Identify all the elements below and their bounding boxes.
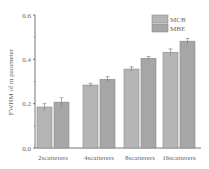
y-axis-title: FWHM of m parameter — [7, 48, 15, 115]
legend-label-mbe: MBE — [170, 25, 185, 33]
bar-mcb — [163, 52, 178, 148]
x-category-label: 4scatterers — [84, 154, 114, 162]
y-tick-label: 0.4 — [22, 56, 31, 64]
bar-mcb — [37, 107, 52, 148]
legend-swatch-mcb — [152, 15, 168, 23]
bar-mbe — [100, 79, 115, 148]
bar-mcb — [124, 69, 139, 148]
plot-area: 0.00.20.40.62scatterers4scatterers8scatt… — [22, 12, 201, 163]
x-category-label: 8scatterers — [125, 154, 155, 162]
legend-swatch-mbe — [152, 24, 168, 32]
legend-label-mcb: MCB — [170, 16, 186, 24]
bar-mcb — [83, 85, 98, 148]
x-category-label: 2scatterers — [38, 154, 68, 162]
y-tick-label: 0.0 — [22, 145, 31, 153]
bar-mbe — [180, 41, 195, 148]
y-tick-label: 0.2 — [22, 100, 31, 108]
y-tick-label: 0.6 — [22, 12, 31, 20]
bar-chart: 0.00.20.40.62scatterers4scatterers8scatt… — [0, 0, 209, 169]
x-category-label: 16scatterers — [162, 154, 196, 162]
bar-mbe — [141, 58, 156, 148]
bar-mbe — [54, 102, 69, 148]
